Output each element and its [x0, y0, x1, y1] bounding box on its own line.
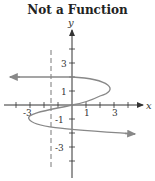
x-tick-label: 1 — [84, 108, 90, 118]
y-tick-label: 1 — [61, 87, 67, 97]
x-tick-label: 3 — [112, 108, 118, 118]
y-tick-label: 3 — [61, 59, 67, 69]
x-tick-label: -3 — [23, 108, 32, 118]
chart-plot: x y -3 1 3 3 1 -1 -3 — [0, 0, 155, 181]
y-tick-label: -1 — [55, 115, 64, 125]
y-tick-label: -3 — [55, 143, 64, 153]
x-axis-label: x — [146, 100, 152, 111]
y-axis-label: y — [67, 17, 74, 28]
